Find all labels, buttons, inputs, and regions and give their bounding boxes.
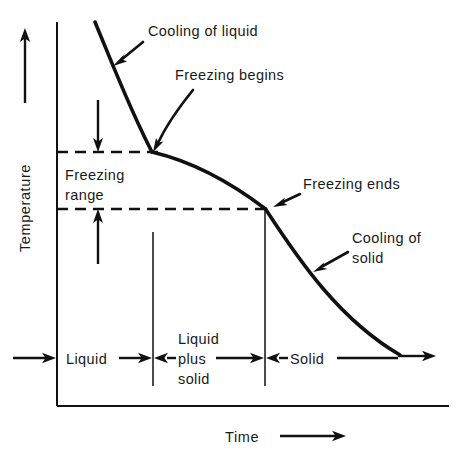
annotation-freezing-begins: Freezing begins bbox=[153, 67, 284, 152]
region-dividers-group bbox=[153, 209, 265, 386]
annotation-freezing-ends: Freezing ends bbox=[273, 176, 400, 207]
cooling-of-solid-label-line2: solid bbox=[352, 250, 384, 266]
freezing-range-label-line1: Freezing bbox=[65, 167, 125, 183]
x-axis-label: Time bbox=[225, 429, 259, 445]
freezing-ends-leader-line bbox=[283, 194, 300, 202]
cooling-of-liquid-label: Cooling of liquid bbox=[148, 23, 258, 39]
curve-freezing-range bbox=[152, 152, 266, 209]
cooling-curve-canvas: Temperature Time Freezing range bbox=[0, 0, 456, 459]
region-band-liquid: Liquid bbox=[13, 351, 152, 367]
left-arrow-icon bbox=[266, 353, 280, 363]
region-band-liquid-plus-solid: Liquid plus solid bbox=[154, 331, 264, 387]
annotation-cooling-of-solid: Cooling of solid bbox=[313, 230, 422, 272]
cooling-of-solid-label-line1: Cooling of bbox=[352, 230, 422, 246]
cooling-curve-figure: Temperature Time Freezing range bbox=[0, 0, 456, 459]
region-band-solid: Solid bbox=[266, 351, 436, 367]
liquid-plus-solid-label-line3: solid bbox=[178, 371, 210, 387]
cooling-of-liquid-leader-line bbox=[121, 42, 143, 60]
freezing-ends-label: Freezing ends bbox=[303, 176, 400, 192]
x-axis-label-group: Time bbox=[225, 429, 346, 445]
y-axis-label: Temperature bbox=[17, 164, 33, 252]
liquid-plus-solid-label-line1: Liquid bbox=[178, 331, 219, 347]
freezing-begins-label: Freezing begins bbox=[175, 67, 284, 83]
freezing-range-label-line2: range bbox=[65, 187, 104, 203]
annotation-cooling-of-liquid: Cooling of liquid bbox=[113, 23, 258, 66]
solid-band-label: Solid bbox=[290, 351, 324, 367]
liquid-plus-solid-label-line2: plus bbox=[178, 351, 206, 367]
liquid-band-label: Liquid bbox=[66, 351, 107, 367]
cooling-of-solid-leader-line bbox=[323, 252, 348, 266]
y-axis-label-group: Temperature bbox=[17, 28, 33, 252]
freezing-begins-leader-line bbox=[158, 90, 193, 143]
left-arrow-icon bbox=[154, 353, 168, 363]
freezing-range-measure-group: Freezing range bbox=[65, 100, 125, 264]
